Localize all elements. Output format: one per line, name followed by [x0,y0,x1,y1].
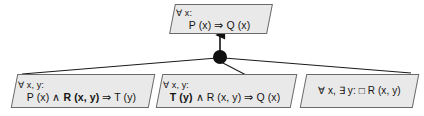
subgoal-right-body: ∀ x, ∃ y: □ R (x, y) [318,85,401,97]
and-junction-node[interactable] [213,50,227,64]
diagram-canvas: ∀ x: P (x) ⇒ Q (x) ∀ x, y: P (x) ∧ R (x,… [0,0,424,116]
subgoal-left-body: P (x) ∧ R (x, y) ⇒ T (y) [27,91,136,103]
subgoal-right-node[interactable]: ∀ x, ∃ y: □ R (x, y) [300,74,420,108]
subgoal-middle-quantifier: ∀ x, y: [163,79,189,91]
root-goal-quantifier: ∀ x: [176,7,192,19]
subgoal-middle-body: T (y) ∧ R (x, y) ⇒ Q (x) [170,91,280,103]
root-goal-node[interactable]: ∀ x: P (x) ⇒ Q (x) [169,4,273,34]
subgoal-left-node[interactable]: ∀ x, y: P (x) ∧ R (x, y) ⇒ T (y) [11,74,156,108]
subgoal-middle-node[interactable]: ∀ x, y: T (y) ∧ R (x, y) ⇒ Q (x) [156,74,298,108]
subgoal-left-quantifier: ∀ x, y: [18,79,44,91]
edge-junction-to-right-subgoal [224,58,411,73]
root-goal-body: P (x) ⇒ Q (x) [189,19,250,31]
edge-junction-to-left-subgoal [22,58,217,74]
